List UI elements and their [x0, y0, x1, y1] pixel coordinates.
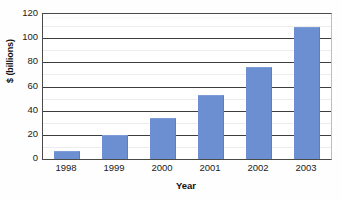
- y-tick-label: 20: [12, 129, 38, 139]
- bar-2002[interactable]: [246, 67, 272, 159]
- y-tick-label: 60: [12, 81, 38, 91]
- y-tick-label: 80: [12, 56, 38, 66]
- y-tick-label: 0: [12, 153, 38, 163]
- x-tick-label: 2002: [234, 162, 282, 173]
- y-axis-tick-labels: 020406080100120: [10, 13, 38, 158]
- plot-area: [42, 13, 332, 160]
- x-axis-tick-labels: 199819992000200120022003: [42, 162, 330, 176]
- bar-slot: [139, 14, 187, 159]
- x-tick-label: 2001: [186, 162, 234, 173]
- y-tick-label: 120: [12, 8, 38, 18]
- bar-slot: [91, 14, 139, 159]
- bars-group: [43, 14, 331, 159]
- bar-slot: [283, 14, 331, 159]
- bar-slot: [235, 14, 283, 159]
- chart-title: [58, 0, 258, 2]
- bar-1998[interactable]: [54, 151, 80, 159]
- bar-slot: [43, 14, 91, 159]
- bar-2003[interactable]: [294, 27, 320, 159]
- y-tick-label: 100: [12, 32, 38, 42]
- bar-slot: [187, 14, 235, 159]
- x-tick-label: 1999: [90, 162, 138, 173]
- bar-chart-figure: $ (billions) 020406080100120 19981999200…: [0, 0, 342, 201]
- y-tick-label: 40: [12, 105, 38, 115]
- bar-2000[interactable]: [150, 118, 176, 159]
- bar-2001[interactable]: [198, 95, 224, 159]
- x-axis-title: Year: [42, 180, 330, 191]
- x-tick-label: 2003: [282, 162, 330, 173]
- x-tick-label: 2000: [138, 162, 186, 173]
- bar-1999[interactable]: [102, 135, 128, 159]
- x-tick-label: 1998: [42, 162, 90, 173]
